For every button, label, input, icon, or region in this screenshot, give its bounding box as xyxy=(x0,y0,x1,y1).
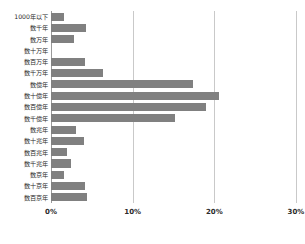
category-label: 数十億年 xyxy=(0,90,48,101)
bar xyxy=(51,58,85,66)
bar-row: 数十億年 xyxy=(51,90,296,101)
bar-row: 数千年 xyxy=(51,22,296,33)
bar-row: 数京年 xyxy=(51,169,296,180)
bar-row: 数千億年 xyxy=(51,113,296,124)
category-label: 1000年以下 xyxy=(0,11,48,22)
gridline xyxy=(296,11,297,203)
bar xyxy=(51,35,74,43)
category-label: 数百万年 xyxy=(0,56,48,67)
category-label: 数京年 xyxy=(0,169,48,180)
category-label: 数億年 xyxy=(0,79,48,90)
bar xyxy=(51,92,219,100)
x-tick-label: 0% xyxy=(45,207,57,217)
bar-row: 数千万年 xyxy=(51,67,296,78)
bar-row: 数億年 xyxy=(51,79,296,90)
category-label: 数十京年 xyxy=(0,180,48,191)
bar-row: 数十京年 xyxy=(51,180,296,191)
category-label: 数万年 xyxy=(0,34,48,45)
bar xyxy=(51,114,175,122)
category-label: 数十兆年 xyxy=(0,135,48,146)
bar xyxy=(51,24,86,32)
bar xyxy=(51,137,84,145)
bar-row: 数百億年 xyxy=(51,101,296,112)
bar-row: 1000年以下 xyxy=(51,11,296,22)
category-label: 数百兆年 xyxy=(0,147,48,158)
bar-row: 数百京年 xyxy=(51,192,296,203)
x-tick-label: 10% xyxy=(124,207,141,217)
bar xyxy=(51,171,64,179)
bar-row: 数万年 xyxy=(51,34,296,45)
x-tick-label: 20% xyxy=(206,207,223,217)
category-label: 数千億年 xyxy=(0,113,48,124)
x-tick-label: 30% xyxy=(288,207,305,217)
bar xyxy=(51,182,85,190)
plot-area: 1000年以下数千年数万年数十万年数百万年数千万年数億年数十億年数百億年数千億年… xyxy=(51,11,296,203)
bar-row: 数百兆年 xyxy=(51,147,296,158)
bar xyxy=(51,103,206,111)
bar xyxy=(51,13,64,21)
bar xyxy=(51,126,76,134)
bar xyxy=(51,69,103,77)
category-label: 数千万年 xyxy=(0,67,48,78)
bar-row: 数兆年 xyxy=(51,124,296,135)
bar-row: 数十兆年 xyxy=(51,135,296,146)
category-label: 数百億年 xyxy=(0,101,48,112)
bar-row: 数千兆年 xyxy=(51,158,296,169)
category-label: 数兆年 xyxy=(0,124,48,135)
bar-row: 数十万年 xyxy=(51,45,296,56)
bar xyxy=(51,193,87,201)
category-label: 数千兆年 xyxy=(0,158,48,169)
bar-row: 数百万年 xyxy=(51,56,296,67)
bar-chart: 1000年以下数千年数万年数十万年数百万年数千万年数億年数十億年数百億年数千億年… xyxy=(0,0,305,244)
bar xyxy=(51,148,67,156)
bar xyxy=(51,159,71,167)
category-label: 数千年 xyxy=(0,22,48,33)
bar xyxy=(51,80,193,88)
category-label: 数百京年 xyxy=(0,192,48,203)
chart-title xyxy=(0,0,305,9)
category-label: 数十万年 xyxy=(0,45,48,56)
